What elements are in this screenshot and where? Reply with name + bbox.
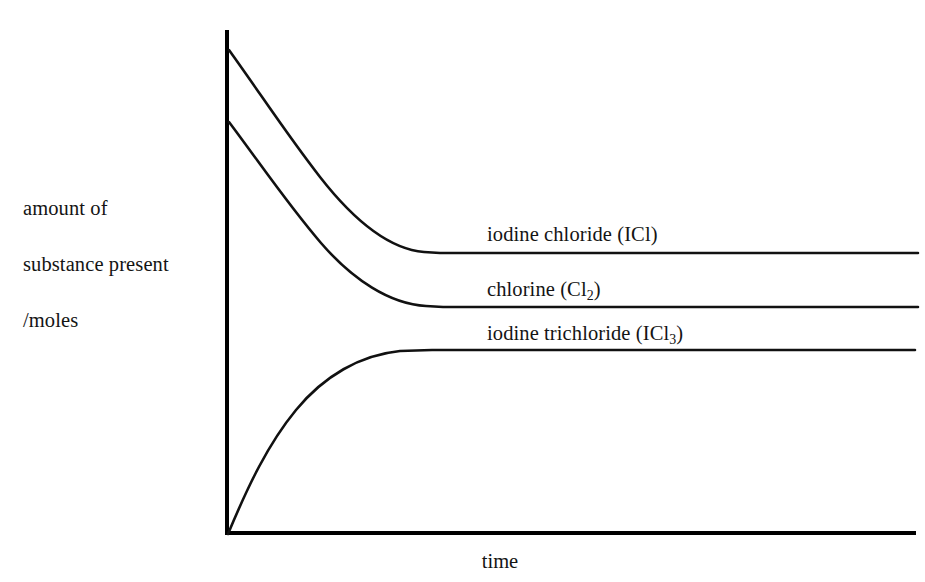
y-axis-title-line-1: amount of xyxy=(23,194,213,222)
y-axis-title: amount of substance present /moles xyxy=(23,166,213,362)
series-label-iodine-chloride-text: iodine chloride (ICl) xyxy=(487,223,658,245)
series-label-iodine-trichloride-text: iodine trichloride (ICl xyxy=(487,322,669,344)
series-label-iodine-trichloride-close: ) xyxy=(676,322,683,344)
series-label-iodine-trichloride: iodine trichloride (ICl3) xyxy=(487,321,683,345)
x-axis-title: time xyxy=(420,548,580,574)
curve-iodine-trichloride xyxy=(228,350,915,534)
series-label-chlorine-close: ) xyxy=(594,278,601,300)
series-label-iodine-chloride: iodine chloride (ICl) xyxy=(487,222,658,246)
series-label-chlorine-text: chlorine (Cl xyxy=(487,278,587,300)
series-label-chlorine-subscript: 2 xyxy=(587,288,594,303)
y-axis-title-line-2: substance present xyxy=(23,250,213,278)
equilibrium-graph-figure: amount of substance present /moles time … xyxy=(0,0,925,582)
series-label-chlorine: chlorine (Cl2) xyxy=(487,277,601,301)
y-axis-title-line-3: /moles xyxy=(23,306,213,334)
